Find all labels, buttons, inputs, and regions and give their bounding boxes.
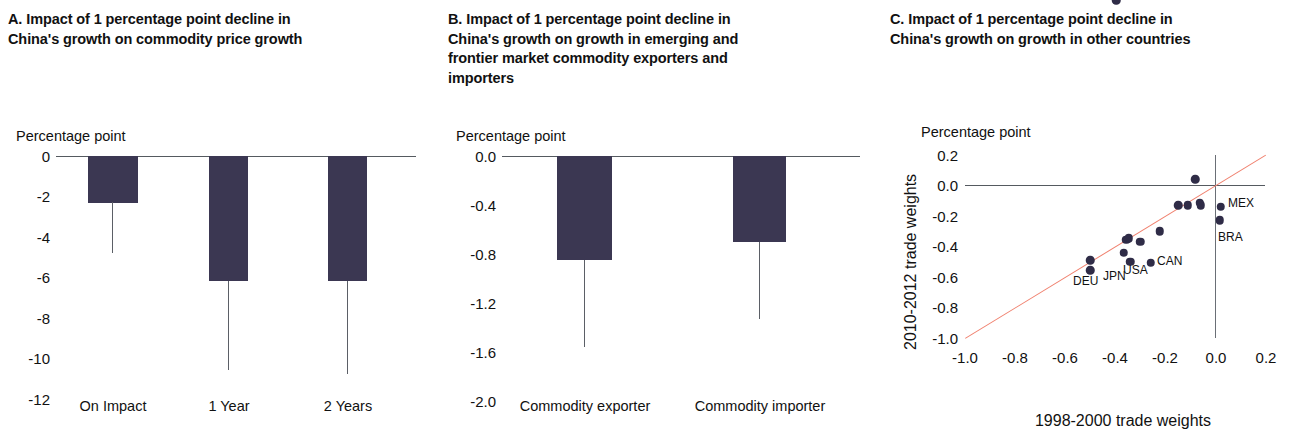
panel-c-reference-line-45deg [965,155,1266,339]
scatter-point [1136,238,1145,247]
panel-b-ytick-2: -0.8 [444,246,496,263]
panel-c-ytick-1: 0.0 [912,177,958,194]
panel-a-xcat-on-impact: On Impact [80,398,147,414]
panel-c-ytick-5: -0.8 [908,299,958,316]
panel-c-xtick-5: 0.0 [1206,349,1227,366]
scatter-point [1196,201,1205,210]
scatter-point [1120,248,1129,257]
scatter-label-mex: MEX [1228,196,1254,210]
panel-b-ytick-0: 0.0 [444,148,496,165]
panel-b-bar-commodity-exporter [557,156,612,260]
panel-b-ytick-1: -0.4 [444,197,496,214]
panel-a-ytick-3: -6 [8,269,50,286]
panel-b-xcat-commodity-exporter: Commodity exporter [520,398,651,414]
panel-a-ytick-1: -2 [8,188,50,205]
panel-a-bar-2-years [328,156,367,281]
scatter-label-deu: DEU [1073,274,1098,288]
scatter-label-usa: USA [1123,263,1148,277]
scatter-point [1174,201,1183,210]
panel-a-errorbar-on-impact [112,202,113,253]
panel-c-horizontal-zero-axis [965,185,1265,186]
panel-c-xtick-0: -1.0 [952,349,978,366]
scatter-label-bra: BRA [1218,230,1243,244]
panel-b-ytick-3: -1.2 [444,295,496,312]
panel-a-bar-1-year [209,156,248,281]
panel-a-errorbar-2-years [347,281,348,374]
panel-a-ytick-0: 0 [8,148,50,165]
panel-b-ytick-5: -2.0 [444,393,496,410]
scatter-point [1086,256,1095,265]
panel-a-ytick-4: -8 [8,310,50,327]
panel-b: B. Impact of 1 percentage point decline … [440,0,880,428]
panel-a-ytick-2: -4 [8,229,50,246]
panel-b-xcat-commodity-importer: Commodity importer [695,398,826,414]
panel-c-ytick-0: 0.2 [912,147,958,164]
panel-c-ytick-3: -0.4 [908,238,958,255]
panel-a-ytick-6: -12 [2,391,50,408]
panel-c-xtick-1: -0.8 [1002,349,1028,366]
panel-b-ytick-4: -1.6 [444,344,496,361]
panel-a-plot: 0 -2 -4 -6 -8 -10 -12 On Impact 1 Year 2… [0,0,440,428]
panel-b-errorbar-commodity-exporter [584,260,585,347]
panel-c-ytick-4: -0.6 [908,269,958,286]
panel-c-ytick-6: -1.0 [908,330,958,347]
panel-b-bar-commodity-importer [733,156,786,242]
panel-c: C. Impact of 1 percentage point decline … [880,0,1292,428]
panel-c-xtick-2: -0.6 [1052,349,1078,366]
scatter-label-can: CAN [1157,254,1182,268]
panel-c-ytick-2: -0.2 [908,208,958,225]
panel-c-xtick-4: -0.2 [1152,349,1178,366]
panel-b-zero-line [502,156,860,157]
scatter-point-bra [1215,216,1224,225]
scatter-point [1155,227,1164,236]
panel-a-xcat-2-years: 2 Years [324,398,372,414]
scatter-point [1191,175,1200,184]
panel-a: A. Impact of 1 percentage point decline … [0,0,440,428]
scatter-point-jpn [1112,0,1121,4]
panel-c-xtick-6: 0.2 [1256,349,1277,366]
panel-b-plot: 0.0 -0.4 -0.8 -1.2 -1.6 -2.0 Commodity e… [440,0,880,428]
panel-a-errorbar-1-year [228,281,229,370]
scatter-point-mex [1216,203,1225,212]
scatter-point [1183,201,1192,210]
panel-c-xtick-3: -0.4 [1102,349,1128,366]
panel-b-errorbar-commodity-importer [759,242,760,319]
panel-a-bar-on-impact [88,156,138,203]
panel-a-ytick-5: -10 [2,350,50,367]
panel-a-xcat-1-year: 1 Year [208,398,249,414]
panel-c-plot: 0.2 0.0 -0.2 -0.4 -0.6 -0.8 -1.0 [880,0,1292,428]
panel-c-vertical-zero-axis [1215,155,1216,338]
panel-c-x-axis-label: 1998-2000 trade weights [1035,412,1211,430]
scatter-point [1125,234,1134,243]
